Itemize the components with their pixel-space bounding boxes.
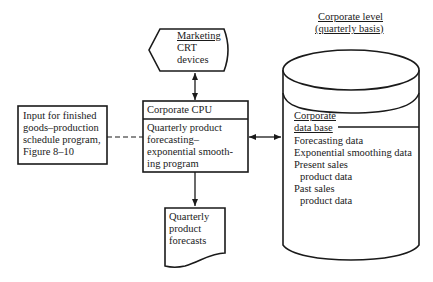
- cpu-header: Corporate CPU: [147, 104, 212, 117]
- database-item: product data: [300, 171, 352, 184]
- marketing-display-line3: devices: [177, 54, 209, 67]
- cpu-line1: Quarterly product: [147, 122, 222, 135]
- database-item: Exponential smoothing data: [294, 147, 412, 160]
- input-box-line4: Figure 8–10: [23, 146, 74, 159]
- input-box-line1: Input for finished: [23, 110, 97, 123]
- database-cylinder-top: [283, 50, 419, 90]
- cpu-line2: forecasting–: [147, 134, 199, 147]
- diagram-title-line2: (quarterly basis): [315, 23, 384, 36]
- marketing-display-line1: Marketing: [177, 30, 221, 43]
- database-item: Forecasting data: [294, 135, 363, 148]
- diagram-title-line1: Corporate level: [318, 11, 383, 24]
- input-box-line2: goods–production: [23, 122, 99, 135]
- marketing-display-line2: CRT: [177, 42, 197, 55]
- report-line1: Quarterly: [169, 211, 209, 224]
- database-item: Past sales: [294, 183, 335, 196]
- database-title-line1: Corporate: [294, 110, 336, 123]
- input-box-line3: schedule program,: [23, 134, 101, 147]
- database-title-line2: data base: [294, 122, 333, 135]
- database-item: Present sales: [294, 159, 348, 172]
- cpu-line4: ing program: [147, 158, 199, 171]
- cpu-line3: exponential smooth-: [147, 146, 233, 159]
- report-line2: product: [169, 223, 201, 236]
- database-item: product data: [300, 195, 352, 208]
- report-line3: forecasts: [169, 235, 206, 248]
